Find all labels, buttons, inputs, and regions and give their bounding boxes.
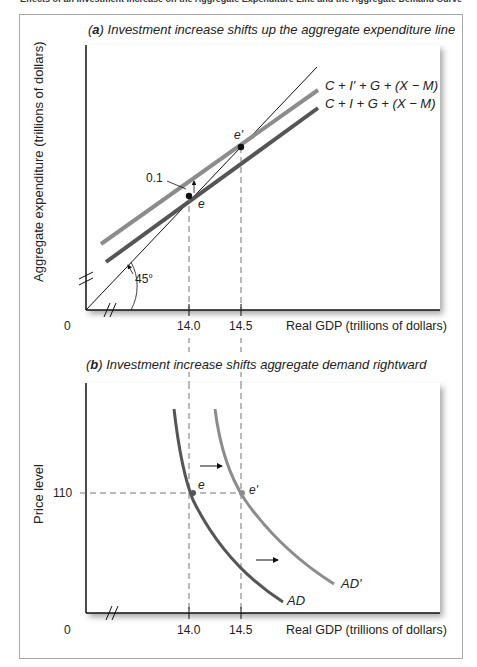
panel-a-origin-label: 0 [64, 319, 71, 333]
panel-b-ad2-label: AD' [340, 576, 362, 591]
panel-b-ad-label: AD [286, 593, 305, 608]
panel-b-y-tick-label-110: 110 [53, 486, 72, 500]
panel-a-x-tick-label-2: 14.5 [229, 319, 253, 333]
chart-canvas: 45° 0.1 e e' C + I' + G + (X − M) C + I … [0, 0, 477, 667]
panel-a-x-axis-label: Real GDP (trillions of dollars) [286, 319, 447, 333]
panel-b-x-axis-label: Real GDP (trillions of dollars) [286, 623, 447, 637]
panel-a-chart: 45° 0.1 e e' C + I' + G + (X − M) C + I … [64, 45, 447, 333]
panel-a-ae-line-upper [101, 90, 318, 244]
panel-b-chart: e e' AD AD' 110 0 14.0 14.5 Real GDP (tr… [53, 383, 447, 637]
panel-a-point-e-label: e [198, 197, 205, 211]
panel-b-point-e2-label: e' [249, 483, 259, 497]
panel-b-point-e-label: e [198, 478, 205, 492]
panel-a-angle-arc [131, 262, 137, 310]
panel-b-x-tick-label-1: 14.0 [177, 623, 201, 637]
panel-b-x-tick-label-2: 14.5 [229, 623, 253, 637]
panel-b-point-e2 [239, 490, 245, 496]
panel-b-ad-curve [174, 409, 283, 602]
panel-a-point-e [186, 193, 192, 199]
panel-b-point-e [190, 490, 196, 496]
panel-a-point-e2 [238, 144, 244, 150]
panel-a-point-e2-label: e' [234, 128, 244, 142]
panel-a-ae-upper-label: C + I' + G + (X − M) [325, 78, 438, 93]
panel-a-ae-line-lower [106, 108, 318, 262]
panel-a-45-degree-line [86, 67, 317, 310]
panel-a-shift-label: 0.1 [146, 171, 163, 185]
panel-a-angle-arrow-icon [128, 265, 133, 274]
panel-a-angle-label: 45° [135, 272, 153, 286]
panel-a-ae-lower-label: C + I + G + (X − M) [325, 96, 436, 111]
panel-a-x-tick-label-1: 14.0 [177, 319, 201, 333]
panel-b-origin-label: 0 [64, 623, 71, 637]
